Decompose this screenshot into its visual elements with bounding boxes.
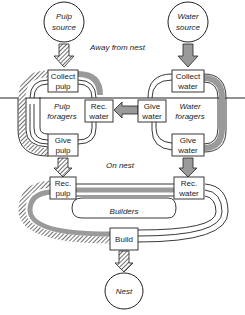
builders-label: Builders [110,207,139,216]
water-foragers-label: Water [179,102,201,111]
svg-text:Give: Give [144,102,161,111]
svg-text:water: water [88,112,109,121]
svg-text:Pulp: Pulp [56,12,73,21]
nest-arrow [115,251,133,272]
svg-text:Collect: Collect [51,72,76,81]
water-down-arrow [179,158,197,177]
water-transfer-arrow [114,102,138,118]
svg-text:Rec.: Rec. [181,179,197,188]
svg-text:Give: Give [180,136,197,145]
svg-text:water: water [141,112,162,121]
svg-text:water: water [178,189,199,198]
svg-text:pulp: pulp [55,82,71,91]
svg-text:water: water [177,82,198,91]
svg-text:Collect: Collect [176,72,201,81]
away-from-nest-label: Away from nest [89,43,146,52]
water-source-arrow [178,44,198,67]
svg-text:Water: Water [177,12,199,21]
svg-text:foragers: foragers [175,112,204,121]
svg-text:source: source [52,23,77,32]
water-source-node: Water source [168,2,208,42]
svg-text:source: source [176,23,201,32]
pulp-foragers-label: Pulp [54,102,71,111]
nest-node: Nest [105,273,143,309]
svg-text:pulp: pulp [55,146,71,155]
svg-text:Build: Build [115,235,133,244]
svg-text:Rec.: Rec. [91,102,107,111]
svg-text:water: water [177,146,198,155]
pulp-source-node: Pulp source [44,2,84,42]
svg-text:foragers: foragers [47,112,76,121]
svg-text:Nest: Nest [116,287,133,296]
pulp-down-arrow [54,158,72,177]
svg-text:Rec.: Rec. [55,179,71,188]
on-nest-label: On nest [106,161,135,170]
svg-text:Give: Give [55,136,72,145]
pulp-source-arrow [54,44,74,67]
svg-text:pulp: pulp [55,189,71,198]
task-partitioning-diagram: Pulp source Water source Away from nest … [0,0,245,315]
